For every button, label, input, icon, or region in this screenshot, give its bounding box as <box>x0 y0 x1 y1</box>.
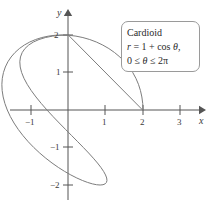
legend-equation: r = 1 + cos θ, <box>127 40 199 54</box>
x-tick-label-1: 1 <box>102 118 107 127</box>
legend-domain-start: 0 ≤ <box>127 55 143 66</box>
x-tick-label-neg1: −1 <box>25 118 35 127</box>
y-tick-label-1: 1 <box>56 68 61 77</box>
polar-graph-figure: −1 1 2 3 2 1 −1 −2 x y Cardioid r = 1 + … <box>0 0 212 207</box>
legend-equation-suffix: , <box>178 41 181 52</box>
legend-domain: 0 ≤ θ ≤ 2π <box>127 54 199 68</box>
y-tick-label-neg1: −1 <box>50 143 60 152</box>
x-tick-label-3: 3 <box>177 118 182 127</box>
y-axis-label: y <box>57 8 61 18</box>
equation-legend-box: Cardioid r = 1 + cos θ, 0 ≤ θ ≤ 2π <box>121 21 200 72</box>
x-axis-arrowhead <box>199 106 206 114</box>
y-axis-arrowhead <box>64 9 72 16</box>
y-tick-label-2: 2 <box>54 31 59 40</box>
legend-title: Cardioid <box>127 26 199 40</box>
x-axis-label: x <box>199 116 203 126</box>
legend-equation-body: = 1 + cos <box>131 41 173 52</box>
y-tick-label-neg2: −2 <box>50 181 60 190</box>
x-tick-label-2: 2 <box>140 118 145 127</box>
legend-domain-end: ≤ 2π <box>147 55 168 66</box>
